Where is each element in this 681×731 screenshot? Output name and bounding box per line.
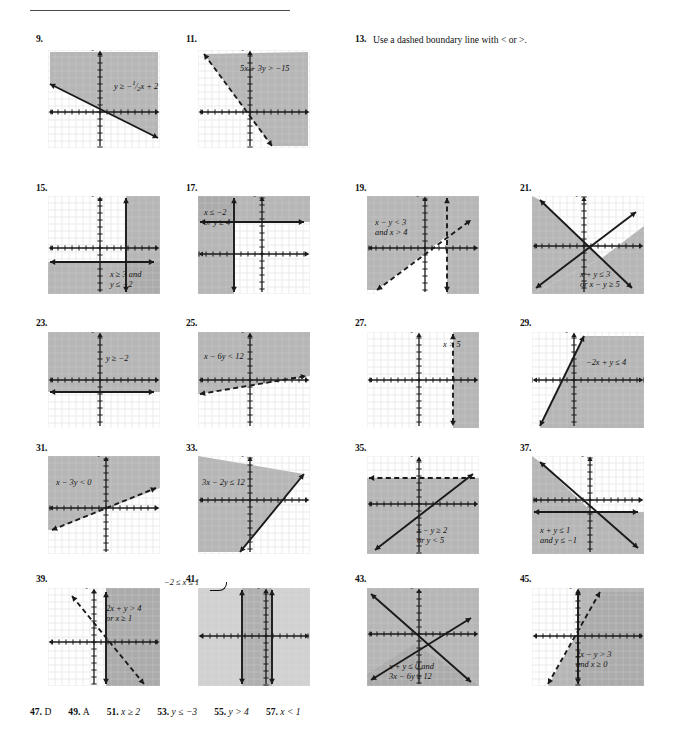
answer-number: 53.	[157, 706, 171, 717]
answer-value: A	[83, 706, 90, 717]
coordinate-graph: xy	[367, 196, 479, 294]
inequality-label: x + y ≤ 0 and	[389, 662, 434, 672]
problem-number: 31.	[36, 443, 47, 453]
header-rule	[30, 10, 290, 11]
problem-number: 19.	[355, 183, 366, 193]
problem-number: 11.	[186, 34, 197, 44]
svg-text:y: y	[98, 456, 103, 457]
problem-number: 23.	[36, 318, 47, 328]
coordinate-graph: xy	[198, 456, 310, 554]
svg-text:y: y	[86, 588, 91, 589]
svg-text:y: y	[242, 332, 247, 333]
answer-value: x < 1	[280, 706, 300, 717]
coordinate-graph: xy	[48, 196, 160, 294]
coordinate-graph: xy	[48, 332, 160, 428]
answer-number: 49.	[68, 706, 82, 717]
coordinate-graph: xy	[532, 332, 644, 428]
answer-key-page: 9.xyy ≥ −1⁄2x + 211.xy5x + 3y > −1513.Us…	[0, 0, 681, 731]
svg-text:y: y	[566, 332, 571, 333]
problem-number: 17.	[186, 183, 197, 193]
svg-text:y: y	[92, 50, 97, 51]
coordinate-graph: xy	[48, 50, 160, 148]
svg-text:y: y	[411, 588, 416, 589]
answer-number: 51.	[107, 706, 121, 717]
svg-text:y: y	[411, 456, 416, 457]
answer-number: 47.	[30, 706, 44, 717]
problem-number: 37.	[520, 443, 531, 453]
problem-number: 35.	[355, 443, 366, 453]
problem-number: 33.	[186, 443, 197, 453]
coordinate-graph: xy	[367, 332, 479, 428]
inequality-label: 5x + 3y > −15	[240, 64, 290, 74]
answer-value: D	[44, 706, 51, 717]
inequality-label: x ≥ 3 and	[110, 270, 141, 280]
problem-answer-text: Use a dashed boundary line with < or >.	[373, 34, 527, 45]
inequality-label: x + y ≤ 1	[540, 526, 570, 536]
svg-text:y: y	[92, 196, 97, 197]
inequality-label: x − y < 3	[375, 218, 406, 228]
inequality-label: x − 3y < 0	[56, 478, 92, 488]
inequality-label-line2: and y ≤ −1	[540, 536, 577, 545]
problem-number: 39.	[36, 574, 47, 584]
problem-number: 45.	[520, 574, 531, 584]
answer-value: y > 4	[229, 706, 249, 717]
answer-item: 55. y > 4	[214, 706, 249, 717]
svg-text:y: y	[92, 332, 97, 333]
inequality-label-line2: y ≤ −2	[110, 280, 132, 289]
answer-item: 53. y ≤ −3	[157, 706, 197, 717]
svg-text:y: y	[242, 50, 247, 51]
problem-number: 9.	[36, 34, 43, 44]
svg-text:y: y	[254, 196, 259, 197]
answer-item: 57. x < 1	[266, 706, 301, 717]
inequality-label: x − y ≥ 2	[417, 526, 447, 536]
coordinate-graph: xy	[48, 588, 160, 686]
coordinate-graph: xy	[48, 456, 160, 554]
inequality-label-line2: or y < 5	[417, 536, 444, 545]
inequality-label: 3x − 2y ≤ 12	[202, 478, 245, 488]
svg-text:y: y	[582, 456, 587, 457]
inequality-label: 2x + y > 4	[106, 604, 142, 614]
inequality-label-line2: or x ≥ 1	[106, 614, 132, 623]
inequality-label: x ≤ −2	[204, 208, 226, 218]
answer-value: y ≤ −3	[172, 706, 198, 717]
svg-text:y: y	[242, 456, 247, 457]
inequality-label-line2: 3x − 6y ≥ 12	[389, 672, 432, 681]
answer-item: 51. x ≥ 2	[107, 706, 141, 717]
problem-number: 13.	[355, 34, 366, 44]
problem-number: 27.	[355, 318, 366, 328]
inequality-label-line2: or y ≥ 4	[204, 218, 230, 227]
problem-number: 43.	[355, 574, 366, 584]
problem-number: 29.	[520, 318, 531, 328]
problem-number: 21.	[520, 183, 531, 193]
inequality-label: x > 5	[443, 340, 461, 350]
problem-number: 15.	[36, 183, 47, 193]
answer-item: 47. D	[30, 706, 51, 717]
answer-item: 49. A	[68, 706, 89, 717]
inequality-label-line2: or x − y ≥ 5	[580, 280, 620, 289]
answer-number: 57.	[266, 706, 280, 717]
inequality-label: x − 6y < 12	[204, 352, 244, 362]
inequality-label-line2: and x > 4	[375, 228, 407, 237]
svg-text:y: y	[411, 332, 416, 333]
coordinate-graph: xy	[198, 588, 310, 686]
inequality-label: 2x − y > 3	[576, 650, 612, 660]
answer-value: x ≥ 2	[121, 706, 140, 717]
inequality-label: y ≥ −1⁄2x + 2	[114, 78, 158, 94]
svg-text:y: y	[417, 196, 422, 197]
svg-text:y: y	[576, 196, 581, 197]
svg-text:y: y	[570, 588, 575, 589]
coordinate-graph: xy	[198, 332, 310, 428]
inequality-label: −2x + y ≤ 4	[586, 358, 626, 368]
problem-number: 25.	[186, 318, 197, 328]
inequality-label-line2: and x ≥ 0	[576, 660, 607, 669]
inequality-label: −2 ≤ x ≤ 1	[164, 578, 199, 588]
coordinate-graph: xy	[532, 588, 644, 686]
inequality-label: x + y ≤ 3	[580, 270, 610, 280]
answers-line: 47. D49. A51. x ≥ 253. y ≤ −355. y > 457…	[30, 706, 318, 717]
svg-text:y: y	[258, 588, 263, 589]
inequality-label: y ≥ −2	[106, 354, 128, 364]
answer-number: 55.	[214, 706, 228, 717]
